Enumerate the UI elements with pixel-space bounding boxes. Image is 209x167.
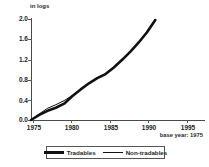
x-tick-mark bbox=[71, 120, 72, 123]
legend-swatch-thin-line bbox=[103, 152, 123, 153]
y-tick-label: 1.6 bbox=[2, 36, 28, 42]
line-chart: in logs 2.0 1.6 1.2 0.8 0.4 0.0 1975 198… bbox=[0, 0, 209, 167]
series-container bbox=[31, 18, 205, 120]
legend-item-non-tradables[interactable]: Non-tradables bbox=[103, 149, 168, 156]
x-tick-label: 1990 bbox=[142, 124, 156, 131]
x-tick-label: 1985 bbox=[104, 124, 118, 131]
x-tick-label: 1975 bbox=[27, 124, 41, 131]
y-tick-label: 0.4 bbox=[2, 98, 28, 104]
series-line-non-tradables bbox=[31, 20, 155, 120]
y-tick-label: 2.0 bbox=[2, 16, 28, 22]
y-tick-label: 1.2 bbox=[2, 57, 28, 63]
x-axis-line bbox=[31, 120, 205, 121]
legend-label: Tradables bbox=[67, 149, 96, 156]
y-tick-label: 0.8 bbox=[2, 77, 28, 83]
legend-swatch-thick-line bbox=[44, 151, 64, 153]
y-axis-labels: 2.0 1.6 1.2 0.8 0.4 0.0 bbox=[0, 0, 28, 167]
x-tick-mark bbox=[33, 120, 34, 123]
x-tick-label: 1995 bbox=[181, 124, 195, 131]
legend: Tradables Non-tradables bbox=[46, 146, 165, 159]
x-tick-mark bbox=[148, 120, 149, 123]
x-tick-mark bbox=[110, 120, 111, 123]
x-tick-mark bbox=[187, 120, 188, 123]
base-year-note: base year: 1975 bbox=[160, 132, 203, 138]
legend-item-tradables[interactable]: Tradables bbox=[44, 149, 96, 156]
plot-area bbox=[31, 18, 205, 120]
y-tick-label: 0.0 bbox=[2, 117, 28, 123]
series-line-tradables bbox=[31, 20, 155, 120]
axis-unit-caption: in logs bbox=[30, 3, 49, 9]
x-tick-label: 1980 bbox=[65, 124, 79, 131]
legend-label: Non-tradables bbox=[126, 149, 168, 156]
